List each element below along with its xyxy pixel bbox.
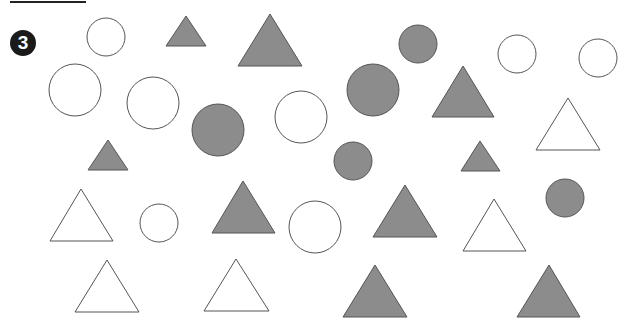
filled-triangle-shape xyxy=(432,66,494,117)
open-circle-shape xyxy=(87,18,125,56)
open-circle-shape xyxy=(127,77,179,129)
filled-triangle-shape xyxy=(238,14,302,66)
filled-circle-shape xyxy=(399,25,437,63)
filled-triangle-shape xyxy=(461,141,500,171)
filled-circle-shape xyxy=(546,179,584,217)
open-triangle-shape xyxy=(536,98,600,150)
open-triangle-shape xyxy=(75,260,139,312)
filled-triangle-shape xyxy=(88,140,128,170)
filled-circle-shape xyxy=(334,142,372,180)
filled-circle-shape xyxy=(347,64,399,116)
open-triangle-shape xyxy=(463,199,526,251)
open-triangle-shape xyxy=(50,189,113,241)
open-circle-shape xyxy=(49,64,101,116)
filled-triangle-shape xyxy=(212,181,275,233)
open-triangle-shape xyxy=(204,259,269,311)
filled-circle-shape xyxy=(192,104,244,156)
filled-triangle-shape xyxy=(343,265,407,317)
filled-triangle-shape xyxy=(517,265,580,317)
open-circle-shape xyxy=(275,91,327,143)
filled-triangle-shape xyxy=(166,16,206,46)
open-circle-shape xyxy=(579,39,617,77)
filled-triangle-shape xyxy=(373,185,437,237)
shapes-canvas xyxy=(0,0,634,333)
open-circle-shape xyxy=(498,35,536,73)
open-circle-shape xyxy=(289,201,341,253)
open-circle-shape xyxy=(140,204,178,242)
